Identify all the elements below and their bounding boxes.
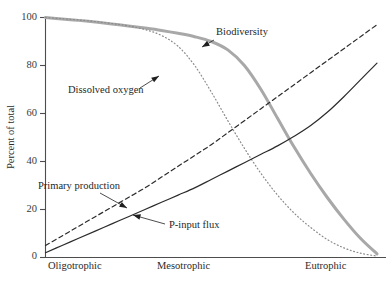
x-axis-category-labels: Oligotrophic Mesotrophic Eutrophic bbox=[48, 260, 347, 271]
annotation-layer: BiodiversityDissolved oxygenPrimary prod… bbox=[38, 26, 269, 230]
annotation-label-primary-production: Primary production bbox=[38, 180, 121, 191]
y-tick-label-20: 20 bbox=[27, 203, 38, 214]
y-tick-label-80: 80 bbox=[27, 59, 38, 70]
chart-figure: 100 80 60 40 20 0 Percent of total Oligo… bbox=[0, 0, 387, 285]
x-label-eutrophic: Eutrophic bbox=[305, 260, 347, 271]
line-chart-svg: 100 80 60 40 20 0 Percent of total Oligo… bbox=[0, 0, 387, 285]
y-axis-title: Percent of total bbox=[5, 105, 16, 169]
y-tick-label-60: 60 bbox=[27, 107, 38, 118]
series-line-primary-production bbox=[46, 25, 378, 246]
y-tick-label-0: 0 bbox=[32, 250, 37, 261]
y-axis-tick-labels: 100 80 60 40 20 0 bbox=[21, 11, 37, 261]
annotation-arrow-p-input-flux bbox=[133, 214, 141, 219]
y-tick-label-40: 40 bbox=[27, 155, 38, 166]
annotation-label-biodiversity: Biodiversity bbox=[216, 26, 269, 37]
annotation-label-dissolved-oxygen: Dissolved oxygen bbox=[68, 84, 144, 95]
x-label-oligotrophic: Oligotrophic bbox=[48, 260, 102, 271]
annotation-label-p-input-flux: P-input flux bbox=[169, 219, 220, 230]
y-tick-label-100: 100 bbox=[21, 11, 37, 22]
y-axis-ticks bbox=[40, 18, 46, 258]
x-label-mesotrophic: Mesotrophic bbox=[157, 260, 210, 271]
annotation-arrow-dissolved-oxygen bbox=[151, 76, 159, 82]
